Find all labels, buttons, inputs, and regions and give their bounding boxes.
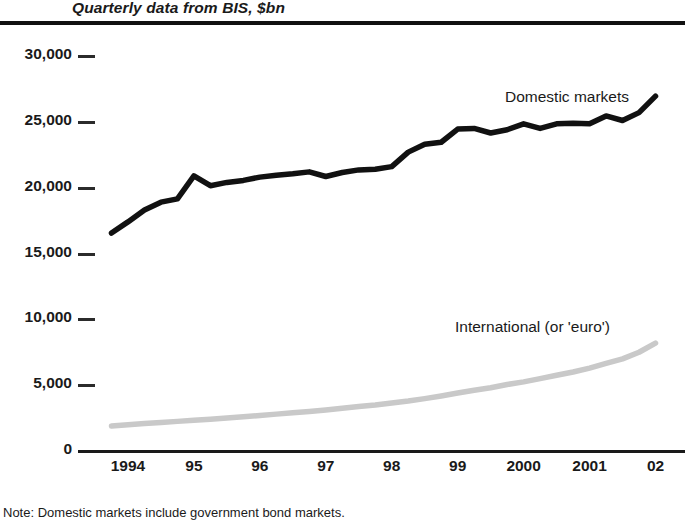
x-axis-tick-label: 02 xyxy=(647,457,664,475)
x-axis-tick-label: 97 xyxy=(317,457,334,475)
y-axis-tick-mark xyxy=(78,253,95,256)
y-axis-tick-mark xyxy=(78,384,95,387)
y-axis-tick-label: 30,000 xyxy=(0,45,72,63)
x-axis-tick-label: 98 xyxy=(383,457,400,475)
y-axis-tick-label: 20,000 xyxy=(0,177,72,195)
y-axis-tick-mark xyxy=(78,55,95,58)
series-label-domestic-markets: Domestic markets xyxy=(505,88,629,106)
y-axis-tick-label: 25,000 xyxy=(0,111,72,129)
x-axis-tick-label: 2000 xyxy=(506,457,540,475)
figure-container: Quarterly data from BIS, $bn 05,00010,00… xyxy=(0,0,685,532)
series-label-international-euro: International (or 'euro') xyxy=(455,318,610,336)
y-axis-tick-label: 0 xyxy=(0,440,72,458)
y-axis-tick-mark xyxy=(78,187,95,190)
plot-area xyxy=(0,0,685,480)
y-axis-tick-label: 10,000 xyxy=(0,308,72,326)
y-axis-tick-mark xyxy=(78,121,95,124)
y-axis-tick-label: 5,000 xyxy=(0,374,72,392)
chart-footnote: Note: Domestic markets include governmen… xyxy=(3,505,345,520)
y-axis-tick-label: 15,000 xyxy=(0,243,72,261)
chart-canvas xyxy=(0,0,685,480)
y-axis-tick-mark xyxy=(78,318,95,321)
series-line-international-or-euro xyxy=(111,343,655,426)
x-axis-tick-label: 96 xyxy=(251,457,268,475)
x-axis-tick-label: 2001 xyxy=(572,457,606,475)
x-axis-tick-label: 1994 xyxy=(111,457,145,475)
series-line-domestic-markets xyxy=(111,96,655,233)
x-axis-tick-label: 99 xyxy=(449,457,466,475)
x-axis-line xyxy=(78,450,685,453)
x-axis-tick-label: 95 xyxy=(185,457,202,475)
